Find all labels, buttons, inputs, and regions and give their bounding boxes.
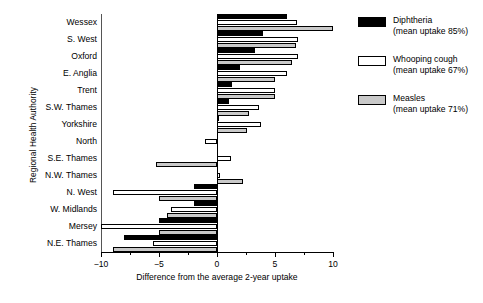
x-axis-tick-label: 0: [197, 259, 237, 269]
bar-whooping: [113, 190, 217, 195]
legend-series-sub: (mean uptake 85%): [393, 26, 468, 37]
y-axis-tick-label: Mersey: [69, 221, 97, 231]
y-axis-tick-label: E. Anglia: [63, 68, 97, 78]
bar-diphtheria: [217, 65, 240, 70]
y-axis-tick-label: S. West: [67, 34, 97, 44]
x-axis-tick: [217, 252, 218, 257]
bar-measles: [217, 111, 249, 116]
legend-label-measles: Measles (mean uptake 71%): [393, 93, 468, 115]
bar-whooping: [101, 224, 217, 229]
bar-diphtheria: [217, 14, 287, 19]
legend-label-diphtheria: Diphtheria (mean uptake 85%): [393, 15, 468, 37]
bar-measles: [159, 230, 217, 235]
legend-swatch-measles: [358, 95, 386, 105]
y-axis-tick-labels: WessexS. WestOxfordE. AngliaTrentS.W. Th…: [0, 14, 97, 252]
bar-whooping: [217, 20, 297, 25]
bar-whooping: [217, 71, 287, 76]
legend-series-name: Measles: [393, 93, 425, 103]
legend-swatch-diphtheria: [358, 17, 386, 27]
legend-item-diphtheria: Diphtheria (mean uptake 85%): [358, 16, 483, 42]
y-axis-tick-label: N.E. Thames: [47, 238, 97, 248]
bar-measles: [217, 94, 275, 99]
legend-series-sub: (mean uptake 67%): [393, 65, 468, 76]
x-axis-tick: [275, 252, 276, 257]
x-axis-minor-tick: [304, 252, 305, 255]
bar-diphtheria: [194, 184, 217, 189]
bar-whooping: [217, 54, 298, 59]
bar-diphtheria: [217, 82, 232, 87]
bar-measles: [156, 162, 217, 167]
bar-measles: [217, 128, 247, 133]
plot-area: [101, 14, 333, 252]
x-axis-tick: [159, 252, 160, 257]
y-axis-line: [101, 14, 102, 252]
bar-diphtheria: [217, 48, 255, 53]
legend-label-whooping-cough: Whooping cough (mean uptake 67%): [393, 54, 468, 76]
legend: Diphtheria (mean uptake 85%) Whooping co…: [358, 16, 483, 133]
chart-figure: Regional Health Authority WessexS. WestO…: [0, 0, 483, 303]
zero-reference-line: [217, 14, 218, 257]
bar-whooping: [217, 88, 275, 93]
x-axis-tick-label: 10: [313, 259, 353, 269]
bar-measles: [113, 247, 217, 252]
x-axis-tick-label: −10: [81, 259, 121, 269]
bar-measles: [217, 60, 292, 65]
legend-series-sub: (mean uptake 71%): [393, 104, 468, 115]
bar-whooping: [171, 207, 217, 212]
bar-whooping: [205, 139, 217, 144]
bar-measles: [217, 77, 275, 82]
y-axis-tick-label: S.E. Thames: [47, 153, 97, 163]
legend-series-name: Diphtheria: [393, 15, 432, 25]
bar-diphtheria: [194, 201, 217, 206]
x-axis-minor-tick: [130, 252, 131, 255]
x-axis-minor-tick: [188, 252, 189, 255]
x-axis-tick-label: −5: [139, 259, 179, 269]
legend-item-whooping-cough: Whooping cough (mean uptake 67%): [358, 55, 483, 81]
y-axis-tick-label: Trent: [77, 85, 97, 95]
x-axis-title: Difference from the average 2-year uptak…: [101, 272, 333, 282]
bar-diphtheria: [124, 235, 217, 240]
bar-diphtheria: [217, 31, 263, 36]
y-axis-tick-label: Oxford: [71, 51, 97, 61]
legend-swatch-whooping-cough: [358, 56, 386, 66]
bar-measles: [217, 43, 296, 48]
y-axis-tick-label: N.W. Thames: [45, 170, 97, 180]
x-axis-minor-tick: [246, 252, 247, 255]
bar-measles: [217, 179, 243, 184]
y-axis-tick-label: North: [76, 136, 97, 146]
bar-measles: [159, 196, 217, 201]
x-axis-tick-label: 5: [255, 259, 295, 269]
bar-whooping: [217, 37, 298, 42]
legend-item-measles: Measles (mean uptake 71%): [358, 94, 483, 120]
bar-measles: [167, 213, 217, 218]
y-axis-tick-label: Wessex: [67, 17, 97, 27]
bar-whooping: [217, 105, 259, 110]
y-axis-tick-label: N. West: [67, 187, 97, 197]
bar-diphtheria: [159, 218, 217, 223]
bar-whooping: [153, 241, 217, 246]
y-axis-tick-label: W. Midlands: [50, 204, 97, 214]
bar-whooping: [217, 156, 231, 161]
bar-measles: [217, 26, 333, 31]
y-axis-tick-label: S.W. Thames: [46, 102, 97, 112]
x-axis-tick: [101, 252, 102, 257]
y-axis-tick-label: Yorkshire: [61, 119, 97, 129]
legend-series-name: Whooping cough: [393, 54, 458, 64]
bar-diphtheria: [217, 99, 229, 104]
x-axis-tick: [333, 252, 334, 257]
bar-whooping: [217, 122, 261, 127]
